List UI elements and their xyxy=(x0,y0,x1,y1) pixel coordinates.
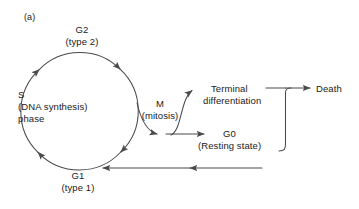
bracket-to-death xyxy=(279,88,291,151)
label-terminal-line2: differentiation xyxy=(203,95,261,107)
label-g0-name: G0 xyxy=(223,128,236,140)
label-g1-name: G1 xyxy=(72,170,85,182)
label-m-sub: (mitosis) xyxy=(142,110,179,122)
label-death: Death xyxy=(316,83,342,95)
label-g2-name: G2 xyxy=(76,24,89,36)
label-s-name: S xyxy=(18,89,24,101)
label-g2-sub: (type 2) xyxy=(66,36,99,48)
label-terminal-line1: Terminal xyxy=(211,83,248,95)
label-s-sub2: phase xyxy=(18,113,44,125)
label-m-name: M xyxy=(156,98,164,110)
label-g1-sub: (type 1) xyxy=(62,182,95,194)
cell-cycle-figure: (a) G2 (type 2) S (DNA synthesis) phase … xyxy=(0,0,359,209)
arc-g1 xyxy=(38,152,121,170)
label-s-sub1: (DNA synthesis) xyxy=(18,101,88,113)
label-g0-sub: (Resting state) xyxy=(198,140,261,152)
arc-g2 xyxy=(39,53,120,70)
arc-m-entry xyxy=(120,69,138,152)
panel-label: (a) xyxy=(24,12,35,24)
